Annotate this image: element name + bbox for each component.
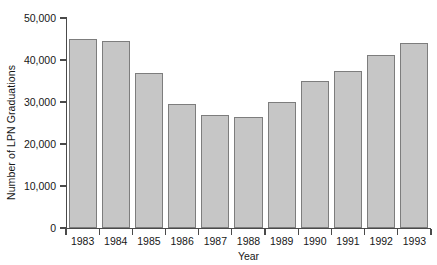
x-tick-label: 1988 [237,236,260,247]
x-tick-label: 1992 [370,236,393,247]
x-tick [331,229,332,235]
x-tick-label: 1989 [270,236,293,247]
x-tick [264,229,265,235]
y-tick-label: 10,000 [0,181,56,192]
x-tick [397,229,398,235]
bar [400,43,428,228]
x-tick [99,229,100,235]
bar [102,41,130,228]
bar [168,104,196,228]
x-tick-label: 1990 [303,236,326,247]
bar [334,71,362,229]
y-tick-label: 20,000 [0,139,56,150]
bars-layer [66,18,431,228]
x-tick-label: 1993 [403,236,426,247]
x-tick-label: 1985 [137,236,160,247]
x-tick-label: 1986 [170,236,193,247]
x-tick-label: 1983 [71,236,94,247]
x-tick [430,229,431,235]
x-tick [198,229,199,235]
x-tick [65,229,66,235]
bar-chart: Number of LPN Graduations 010,00020,0003… [0,0,437,265]
x-tick [364,229,365,235]
x-axis-title: Year [66,250,431,262]
x-tick-label: 1987 [204,236,227,247]
x-tick-label: 1984 [104,236,127,247]
x-tick-label: 1991 [336,236,359,247]
x-tick [298,229,299,235]
bar [201,115,229,228]
bar [69,39,97,228]
y-tick-label: 0 [0,223,56,234]
x-tick [132,229,133,235]
bar [268,102,296,228]
bar [301,81,329,228]
bar [367,55,395,228]
bar [234,117,262,228]
x-axis-line [66,228,431,229]
x-tick [231,229,232,235]
y-tick-label: 30,000 [0,97,56,108]
y-tick-label: 40,000 [0,55,56,66]
bar [135,73,163,228]
y-tick-label: 50,000 [0,13,56,24]
x-tick [165,229,166,235]
